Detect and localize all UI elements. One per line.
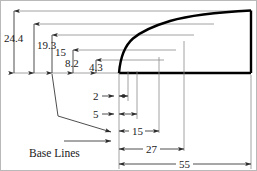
dim-label-15-top: 15 (132, 125, 144, 137)
dim-label-4-3: 4.3 (89, 61, 103, 73)
base-lines-label: Base Lines (29, 147, 80, 159)
dim-label-5: 5 (93, 108, 99, 120)
dim-label-55-top: 55 (179, 158, 191, 170)
dim-label-8-2: 8.2 (65, 57, 79, 69)
base-lines-leaders (52, 74, 111, 141)
figure-canvas: 24.4 19.3 15 8.2 4.3 (0, 0, 257, 171)
dimension-leader-stubs (102, 96, 114, 114)
dim-label-27-top: 27 (146, 143, 158, 155)
leader-to-vertical-base (52, 74, 111, 132)
dim-label-24-4: 24.4 (4, 32, 24, 44)
dim-label-2: 2 (93, 90, 99, 102)
dimension-drawing: 24.4 19.3 15 8.2 4.3 (1, 1, 257, 171)
profile-upper-curve (119, 11, 251, 74)
dim-label-19-3: 19.3 (37, 39, 57, 51)
